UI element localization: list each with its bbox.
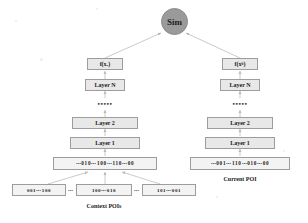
context-pois-caption: Context POIs	[62, 203, 146, 209]
context-poi-item-2-label: 100⋯010	[92, 188, 116, 193]
context-poi-item-1[interactable]: 001⋯100	[12, 184, 66, 196]
context-poi-item-3-label: 101⋯001	[157, 188, 181, 193]
context-poi-separator-2: ⋯	[130, 184, 144, 196]
right-output-fx-box[interactable]: f(xᵇ)	[222, 58, 258, 70]
left-output-fx-label: f(xₐ)	[100, 61, 111, 67]
right-output-fx-label: f(xᵇ)	[235, 61, 246, 67]
context-poi-item-3[interactable]: 101⋯001	[142, 184, 196, 196]
left-layer-n-label: Layer N	[94, 82, 115, 88]
right-layer-2-box[interactable]: Layer 2	[207, 117, 273, 129]
right-layer-1-box[interactable]: Layer 1	[205, 137, 275, 149]
left-layer-1-box[interactable]: Layer 1	[70, 137, 140, 149]
diagram-canvas: Sim f(xₐ) Layer N ••••• Layer 2 Layer 1 …	[0, 0, 308, 223]
context-poi-item-2[interactable]: 100⋯010	[76, 184, 132, 196]
context-poi-separator-1: ⋯	[64, 184, 78, 196]
left-layer-ellipsis-label: •••••	[98, 100, 113, 108]
right-layer-2-label: Layer 2	[230, 120, 250, 126]
left-layer-n-box[interactable]: Layer N	[85, 79, 125, 91]
context-poi-item-1-label: 001⋯100	[27, 188, 51, 193]
left-output-fx-box[interactable]: f(xₐ)	[87, 58, 123, 70]
right-input-vector-label: ⋯001⋯110⋯010⋯00	[211, 161, 270, 166]
right-layer-n-box[interactable]: Layer N	[220, 79, 260, 91]
left-layer-2-label: Layer 2	[95, 120, 115, 126]
similarity-node[interactable]: Sim	[161, 8, 188, 35]
left-layer-2-box[interactable]: Layer 2	[72, 117, 138, 129]
left-layer-ellipsis: •••••	[90, 99, 120, 109]
right-layer-ellipsis: •••••	[225, 99, 255, 109]
left-input-vector-label: ⋯010⋯100⋯110⋯00	[76, 161, 135, 166]
context-poi-separator-2-label: ⋯	[134, 187, 140, 193]
current-poi-caption: Current POI	[200, 176, 280, 182]
left-input-vector-box[interactable]: ⋯010⋯100⋯110⋯00	[53, 157, 157, 170]
right-layer-ellipsis-label: •••••	[233, 100, 248, 108]
similarity-node-label: Sim	[167, 17, 182, 27]
current-poi-caption-label: Current POI	[223, 176, 256, 182]
left-layer-1-label: Layer 1	[95, 140, 115, 146]
right-input-vector-box[interactable]: ⋯001⋯110⋯010⋯00	[190, 157, 290, 170]
right-layer-n-label: Layer N	[229, 82, 250, 88]
context-pois-caption-label: Context POIs	[87, 203, 122, 209]
right-layer-1-label: Layer 1	[230, 140, 250, 146]
context-poi-separator-1-label: ⋯	[68, 187, 74, 193]
